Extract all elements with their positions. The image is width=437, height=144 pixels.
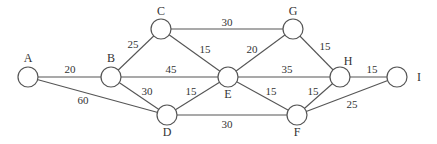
node-i <box>387 67 407 87</box>
node-label-g: G <box>289 4 298 18</box>
edge-e-f <box>228 77 297 115</box>
edge-weight-label: 15 <box>266 85 278 97</box>
edge-weight-label: 15 <box>186 85 198 97</box>
edge-d-e <box>167 77 228 115</box>
edge-weight-label: 45 <box>166 63 178 75</box>
node-label-d: D <box>163 125 172 139</box>
node-label-e: E <box>224 87 231 101</box>
edge-weight-label: 30 <box>142 85 154 97</box>
graph-diagram: 20602545303015153020351515151525 ABCDEGH… <box>0 0 437 144</box>
node-c <box>151 19 171 39</box>
edge-weight-label: 15 <box>200 43 212 55</box>
edge-weight-label: 20 <box>65 63 77 75</box>
node-label-b: B <box>107 51 115 65</box>
edge-weight-label: 35 <box>282 63 294 75</box>
node-b <box>101 67 121 87</box>
node-a <box>18 67 38 87</box>
edge-weight-label: 15 <box>367 63 379 75</box>
edge-weight-label: 30 <box>222 16 234 28</box>
edge-weight-label: 20 <box>247 43 259 55</box>
node-d <box>157 105 177 125</box>
node-label-i: I <box>417 70 421 84</box>
node-label-h: H <box>344 54 353 68</box>
node-f <box>287 105 307 125</box>
node-label-c: C <box>157 4 165 18</box>
edge-weight-label: 25 <box>128 38 140 50</box>
node-h <box>330 67 350 87</box>
node-e <box>218 67 238 87</box>
node-g <box>283 19 303 39</box>
edge-weight-label: 30 <box>222 118 234 130</box>
edge-weight-label: 15 <box>308 85 320 97</box>
edge-weight-label: 15 <box>320 40 332 52</box>
edge-weight-label: 60 <box>78 94 90 106</box>
node-label-f: F <box>294 125 301 139</box>
node-label-a: A <box>24 51 33 65</box>
edge-weight-label: 25 <box>347 98 359 110</box>
